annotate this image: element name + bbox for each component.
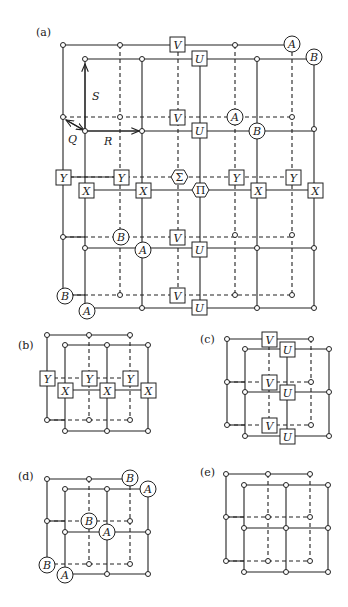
panel-e-label: (e) [200,466,215,479]
svg-text:Π: Π [196,184,206,197]
svg-text:U: U [195,244,205,257]
panel-c-label: (c) [200,333,215,346]
svg-text:X: X [139,185,149,198]
svg-text:B: B [84,515,93,528]
svg-text:A: A [82,305,91,318]
svg-text:Σ: Σ [176,171,184,184]
svg-text:V: V [266,334,275,347]
svg-text:X: X [311,185,321,198]
panel-a-label: (a) [36,26,51,39]
svg-text:A: A [287,38,296,51]
svg-text:X: X [103,385,113,398]
svg-text:X: X [61,385,71,398]
panel-d-label: (d) [18,470,34,483]
panel-c: (c) V V V U U U [200,332,332,444]
vector-r-label: R [103,135,112,148]
vector-s-label: S [92,90,100,103]
svg-text:U: U [195,302,205,315]
svg-text:B: B [42,559,51,572]
svg-text:B: B [60,290,69,303]
svg-text:A: A [138,244,147,257]
lattice-figure: (a) S Q R [0,0,348,607]
svg-text:A: A [102,526,111,539]
svg-text:A: A [60,569,69,582]
svg-text:X: X [82,185,92,198]
svg-text:B: B [116,231,125,244]
svg-text:A: A [230,111,239,124]
svg-text:A: A [143,483,152,496]
svg-text:B: B [125,472,134,485]
svg-text:U: U [283,387,293,400]
panel-b-label: (b) [18,339,34,352]
svg-text:V: V [266,377,275,390]
svg-text:U: U [283,344,293,357]
svg-text:V: V [174,290,183,303]
panel-e: (e) [200,466,331,575]
operator-pi: Π [192,183,209,197]
svg-text:B: B [309,51,318,64]
svg-text:U: U [195,53,205,66]
vector-q-label: Q [68,133,77,146]
svg-text:B: B [252,125,261,138]
panel-b: (b) Y Y Y X X X [18,333,156,434]
svg-text:V: V [174,112,183,125]
svg-text:X: X [144,385,154,398]
svg-text:V: V [174,39,183,52]
operator-sigma: Σ [171,170,188,184]
panel-d: (d) B B B A A A [18,470,156,583]
svg-text:U: U [283,431,293,444]
svg-text:U: U [195,125,205,138]
panel-a: (a) S Q R [36,26,323,319]
svg-text:V: V [174,232,183,245]
svg-text:X: X [254,185,264,198]
svg-text:V: V [266,420,275,433]
